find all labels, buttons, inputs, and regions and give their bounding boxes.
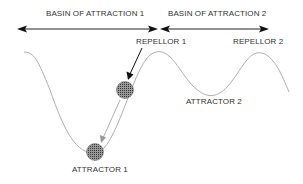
push-arrow — [127, 48, 143, 80]
attractor-landscape-diagram — [0, 0, 303, 184]
roll-arrow — [100, 100, 120, 143]
basin-1-label: BASIN OF ATTRACTION 1 — [46, 9, 144, 18]
repellor-1-label: REPELLOR 1 — [136, 37, 186, 46]
attractor-1-label: ATTRACTOR 1 — [72, 165, 128, 174]
energy-landscape-curve — [24, 52, 289, 153]
basin-2-label: BASIN OF ATTRACTION 2 — [168, 9, 266, 18]
basin-1-range-arrow — [17, 26, 158, 33]
basin-2-range-arrow — [160, 26, 269, 33]
ball-upper — [117, 82, 134, 99]
ball-attractor-1 — [87, 144, 104, 161]
repellor-2-label: REPELLOR 2 — [233, 37, 283, 46]
attractor-2-label: ATTRACTOR 2 — [186, 97, 242, 106]
